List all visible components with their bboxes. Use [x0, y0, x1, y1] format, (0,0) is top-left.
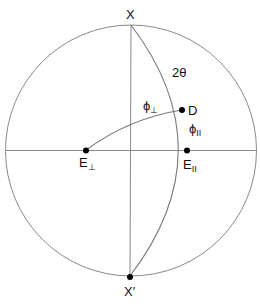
point-E-parallel: [184, 148, 190, 154]
label-phi-parallel: ϕII: [189, 121, 201, 138]
label-X-prime: X′: [124, 284, 136, 299]
label-X: X: [126, 7, 135, 22]
point-D: [179, 107, 185, 113]
point-X-prime: [127, 274, 133, 280]
label-phi-perp: ϕ⊥: [143, 98, 158, 115]
stereogram-diagram: X X′ D 2θ ϕ⊥ ϕII EII E⊥: [0, 0, 260, 306]
point-E-perp: [83, 148, 89, 154]
label-E-perp: E⊥: [79, 155, 96, 172]
small-circle-arc: [86, 110, 182, 150]
label-two-theta: 2θ: [172, 65, 186, 80]
vertical-diameter: [130, 25, 131, 276]
label-E-parallel: EII: [183, 157, 197, 174]
label-D: D: [188, 103, 197, 118]
